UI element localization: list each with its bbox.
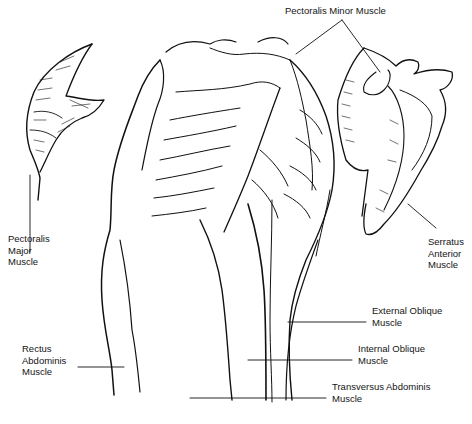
- leader-lines: [78, 20, 436, 398]
- label-pectoralis-major: Pectoralis Major Muscle: [8, 233, 50, 268]
- label-transversus-abdominis: Transversus Abdominis Muscle: [332, 381, 430, 404]
- label-rectus-abdominis: Rectus Abdominis Muscle: [22, 343, 66, 378]
- label-internal-oblique: Internal Oblique Muscle: [358, 343, 425, 366]
- torso-drawing: [101, 38, 334, 402]
- anatomy-figure: Pectoralis Minor Muscle Pectoralis Major…: [0, 0, 472, 424]
- serratus-anterior-drawing: [337, 48, 452, 235]
- label-external-oblique: External Oblique Muscle: [372, 305, 442, 328]
- pectoralis-major-drawing: [27, 44, 104, 252]
- label-serratus-anterior: Serratus Anterior Muscle: [428, 236, 464, 271]
- label-pectoralis-minor: Pectoralis Minor Muscle: [285, 5, 386, 17]
